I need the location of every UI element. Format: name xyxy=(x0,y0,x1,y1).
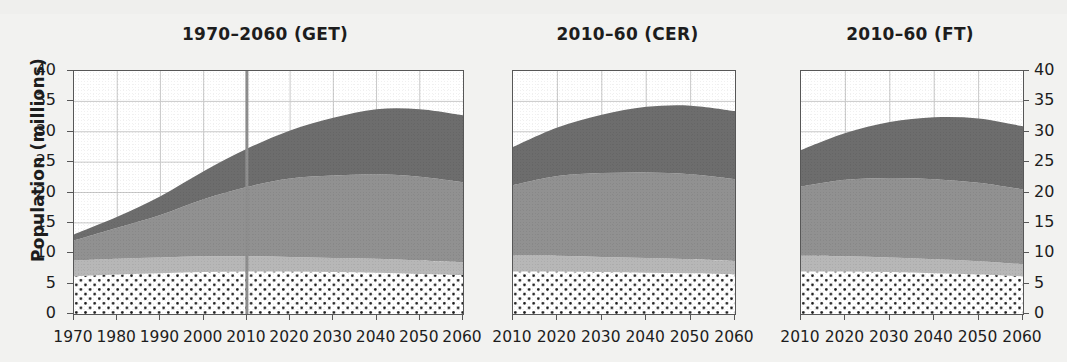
y-tick-mark xyxy=(67,70,73,71)
y-tick-mark xyxy=(67,161,73,162)
y-tick-mark xyxy=(67,252,73,253)
x-axis-2: 201020202030204020502060 xyxy=(0,0,1067,362)
y-tick-mark xyxy=(67,222,73,223)
x-tick-label: 2010 xyxy=(780,329,819,345)
x-tick-label: 2020 xyxy=(825,329,864,345)
x-tick-mark xyxy=(844,314,845,320)
x-tick-mark xyxy=(933,314,934,320)
y-axis-right: 4035302520151050 xyxy=(1023,0,1067,362)
y-tick-label: 20 xyxy=(36,184,56,200)
y-tick-label: 30 xyxy=(36,123,56,139)
y-tick-label: 25 xyxy=(36,153,56,169)
y-tick-mark-right xyxy=(1023,313,1029,314)
y-axis-left: 4035302520151050 xyxy=(0,0,68,362)
x-tick-label: 2050 xyxy=(958,329,997,345)
y-tick-label: 5 xyxy=(46,275,56,291)
y-tick-mark-right xyxy=(1023,252,1029,253)
y-tick-label: 0 xyxy=(46,305,56,321)
y-tick-mark-right xyxy=(1023,70,1029,71)
y-tick-mark xyxy=(67,192,73,193)
y-tick-mark xyxy=(67,100,73,101)
y-tick-label-right: 10 xyxy=(1034,244,1054,260)
y-tick-mark-right xyxy=(1023,222,1029,223)
y-tick-label-right: 30 xyxy=(1034,123,1054,139)
x-tick-label: 2040 xyxy=(913,329,952,345)
x-tick-mark xyxy=(889,314,890,320)
y-tick-mark-right xyxy=(1023,131,1029,132)
y-tick-label-right: 15 xyxy=(1034,214,1054,230)
x-tick-label: 2030 xyxy=(869,329,908,345)
y-tick-label-right: 25 xyxy=(1034,153,1054,169)
y-tick-mark xyxy=(67,283,73,284)
y-tick-label: 15 xyxy=(36,214,56,230)
y-tick-label-right: 40 xyxy=(1034,62,1054,78)
y-tick-mark xyxy=(67,131,73,132)
y-tick-label-right: 0 xyxy=(1034,305,1044,321)
y-tick-label-right: 20 xyxy=(1034,184,1054,200)
y-tick-label: 40 xyxy=(36,62,56,78)
y-tick-mark-right xyxy=(1023,283,1029,284)
population-projection-figure: Population (millions) 1970–2060 (GET) 20… xyxy=(0,0,1067,362)
x-tick-mark xyxy=(800,314,801,320)
y-tick-label: 35 xyxy=(36,92,56,108)
y-tick-mark-right xyxy=(1023,100,1029,101)
x-tick-mark xyxy=(978,314,979,320)
y-tick-mark-right xyxy=(1023,192,1029,193)
y-tick-label: 10 xyxy=(36,244,56,260)
y-tick-mark xyxy=(67,313,73,314)
y-tick-label-right: 35 xyxy=(1034,92,1054,108)
y-tick-mark-right xyxy=(1023,161,1029,162)
y-tick-label-right: 5 xyxy=(1034,275,1044,291)
